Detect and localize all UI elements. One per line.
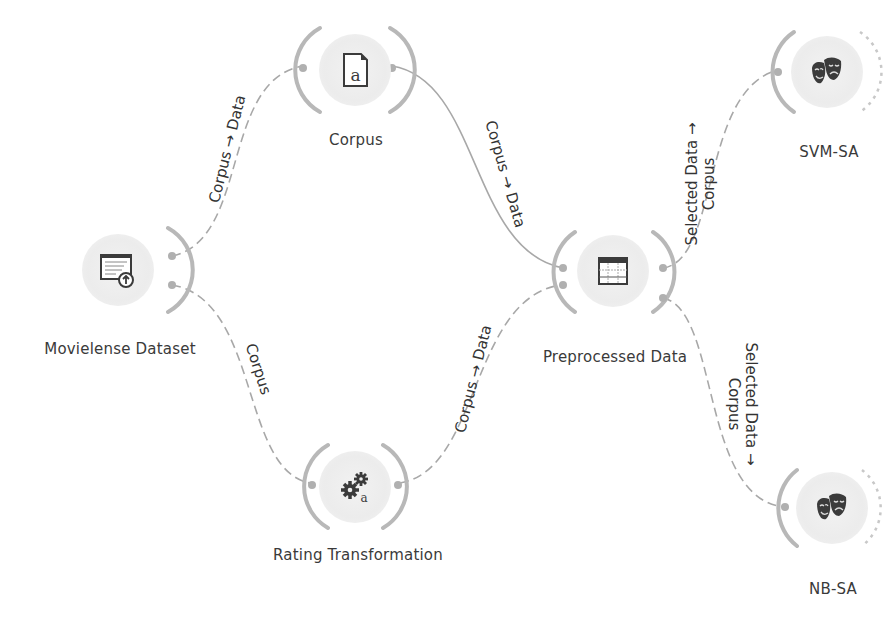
link-preprocessed-svm[interactable] bbox=[663, 70, 778, 268]
port-dot[interactable] bbox=[559, 281, 567, 289]
node-label-nb: NB-SA bbox=[809, 580, 857, 598]
port-dot[interactable] bbox=[168, 252, 176, 260]
node-preprocessed-data[interactable] bbox=[568, 226, 658, 316]
node-svm-sa[interactable] bbox=[782, 27, 872, 117]
node-label-movielense: Movielense Dataset bbox=[44, 340, 195, 358]
node-label-preprocessed: Preprocessed Data bbox=[543, 348, 687, 366]
node-nb-sa[interactable] bbox=[787, 463, 877, 553]
link-label-line2: Corpus bbox=[725, 343, 742, 466]
port-dot[interactable] bbox=[774, 68, 782, 76]
svg-text:a: a bbox=[360, 491, 367, 505]
node-label-svm: SVM-SA bbox=[799, 143, 858, 161]
port-dot[interactable] bbox=[299, 64, 307, 72]
port-dot[interactable] bbox=[168, 281, 176, 289]
document-a-icon: a bbox=[335, 50, 375, 90]
data-table-icon bbox=[593, 251, 633, 291]
link-label-line1: Selected Data → bbox=[742, 343, 759, 466]
port-dot[interactable] bbox=[659, 294, 667, 302]
link-preprocessed-nb[interactable] bbox=[663, 298, 785, 507]
port-dot[interactable] bbox=[559, 264, 567, 272]
movielense-output-arc bbox=[168, 228, 193, 312]
link-label-line1: Selected Data → bbox=[684, 123, 701, 246]
corpus-upload-icon bbox=[98, 250, 138, 290]
workflow-canvas[interactable]: Movielense Dataset a Corpus a Rating Tra… bbox=[0, 0, 892, 619]
port-dot[interactable] bbox=[659, 264, 667, 272]
link-label-preprocessed-svm: Selected Data → Corpus bbox=[684, 123, 718, 246]
link-corpus-preprocessed[interactable] bbox=[392, 66, 563, 268]
link-movielense-rating[interactable] bbox=[172, 285, 310, 483]
node-rating-transformation[interactable]: a bbox=[310, 442, 400, 532]
svg-text:a: a bbox=[350, 65, 360, 85]
link-label-preprocessed-nb: Selected Data → Corpus bbox=[725, 343, 759, 466]
link-label-line2: Corpus bbox=[701, 123, 718, 246]
node-corpus[interactable]: a bbox=[310, 25, 400, 115]
theater-masks-icon bbox=[812, 488, 852, 528]
gears-a-icon: a bbox=[335, 467, 375, 507]
node-movielense-dataset[interactable] bbox=[73, 225, 163, 315]
theater-masks-icon bbox=[807, 52, 847, 92]
node-label-rating: Rating Transformation bbox=[273, 546, 443, 564]
node-label-corpus: Corpus bbox=[329, 131, 383, 149]
